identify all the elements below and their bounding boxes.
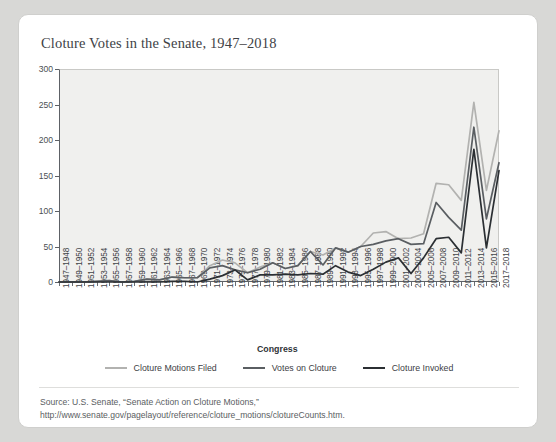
series-line — [59, 102, 499, 282]
legend-label-votes: Votes on Cloture — [272, 363, 337, 373]
series-line — [59, 127, 499, 282]
legend-label-invoked: Cloture Invoked — [392, 363, 454, 373]
legend-swatch-votes — [243, 367, 265, 369]
footer-divider — [39, 387, 519, 388]
legend-swatch-invoked — [363, 367, 385, 369]
legend-swatch-filed — [105, 367, 127, 369]
legend-item: Votes on Cloture — [243, 363, 337, 373]
chart-legend: Cloture Motions Filed Votes on Cloture C… — [59, 363, 499, 373]
legend-item: Cloture Motions Filed — [105, 363, 217, 373]
legend-label-filed: Cloture Motions Filed — [134, 363, 217, 373]
source-note: Source: U.S. Senate, “Senate Action on C… — [40, 396, 518, 423]
legend-item: Cloture Invoked — [363, 363, 454, 373]
chart-card: Cloture Votes in the Senate, 1947–2018 0… — [18, 14, 538, 428]
